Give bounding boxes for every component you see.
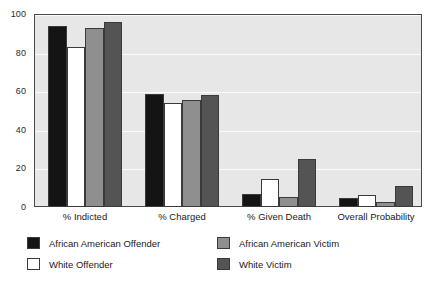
legend-label: White Offender xyxy=(49,259,113,270)
bar-chart: 100 80 60 40 20 0 % Indicted% Charged% G… xyxy=(0,0,437,281)
bar xyxy=(395,186,414,207)
legend-label: African American Offender xyxy=(49,238,160,249)
legend-swatch xyxy=(27,237,40,249)
bars-layer xyxy=(34,14,422,207)
y-tick-label: 100 xyxy=(11,10,26,19)
legend-label: White Victim xyxy=(239,259,292,270)
bar xyxy=(48,26,67,207)
legend-item: White Offender xyxy=(27,257,113,271)
legend-label: African American Victim xyxy=(239,238,339,249)
legend-swatch xyxy=(217,258,230,270)
legend-item: African American Victim xyxy=(217,236,339,250)
y-tick-label: 80 xyxy=(16,48,26,57)
bar xyxy=(85,28,104,207)
bar xyxy=(261,179,280,207)
legend-swatch xyxy=(217,237,230,249)
y-tick-label: 40 xyxy=(16,125,26,134)
y-axis: 100 80 60 40 20 0 xyxy=(0,14,30,207)
bar xyxy=(242,194,261,208)
x-tick-label: % Indicted xyxy=(63,211,107,222)
bar xyxy=(145,94,164,207)
bar xyxy=(298,159,317,207)
legend-item: African American Offender xyxy=(27,236,160,250)
y-tick-label: 0 xyxy=(21,203,26,212)
x-tick-label: % Charged xyxy=(158,211,206,222)
bar xyxy=(339,198,358,207)
legend-swatch xyxy=(27,258,40,270)
x-tick-label: Overall Probability xyxy=(337,211,414,222)
bar xyxy=(104,22,123,207)
bar xyxy=(376,202,395,207)
x-axis: % Indicted% Charged% Given DeathOverall … xyxy=(34,209,422,225)
bar xyxy=(164,103,183,207)
bar xyxy=(182,100,201,207)
bar xyxy=(358,195,377,207)
bar xyxy=(279,197,298,207)
chart-legend: African American OffenderAfrican America… xyxy=(27,236,427,276)
x-tick-label: % Given Death xyxy=(247,211,311,222)
y-tick-label: 60 xyxy=(16,87,26,96)
y-tick-label: 20 xyxy=(16,164,26,173)
bar xyxy=(67,47,86,207)
bar xyxy=(201,95,220,207)
legend-item: White Victim xyxy=(217,257,292,271)
